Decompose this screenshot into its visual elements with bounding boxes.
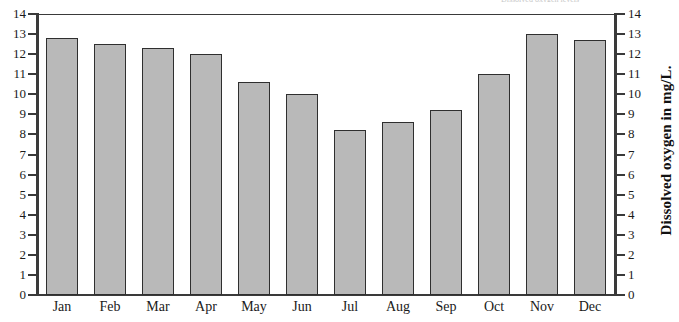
x-axis-label-may: May	[230, 299, 278, 315]
x-axis-label-jun: Jun	[278, 299, 326, 315]
y-axis-right-tick	[617, 93, 625, 95]
x-axis-label-oct: Oct	[470, 299, 518, 315]
y-axis-right-tick-label: 11	[628, 67, 642, 80]
y-axis-right-tick-label: 4	[628, 208, 642, 221]
x-axis-label-nov: Nov	[518, 299, 566, 315]
y-axis-right-tick	[617, 73, 625, 75]
y-axis-right-tick-label: 1	[628, 268, 642, 281]
x-axis-label-apr: Apr	[182, 299, 230, 315]
x-axis-label-jul: Jul	[326, 299, 374, 315]
bar-aug	[382, 122, 415, 295]
y-axis-left-tick-label: 6	[0, 168, 26, 181]
y-axis-right-tick	[617, 294, 625, 296]
y-axis-right-title: Dissolved oxygen in mg/L.	[655, 0, 677, 300]
y-axis-left-tick	[28, 274, 36, 276]
x-axis-label-mar: Mar	[134, 299, 182, 315]
y-axis-right-tick	[617, 53, 625, 55]
y-axis-left-tick-label: 4	[0, 208, 26, 221]
y-axis-left-tick-label: 12	[0, 47, 26, 60]
y-axis-left-tick-label: 13	[0, 27, 26, 40]
y-axis-right-tick-label: 3	[628, 228, 642, 241]
bar-jun	[286, 94, 319, 295]
y-axis-left-tick-label: 1	[0, 268, 26, 281]
x-axis-label-dec: Dec	[566, 299, 614, 315]
y-axis-left-tick-label: 9	[0, 107, 26, 120]
y-axis-right-tick	[617, 214, 625, 216]
y-axis-right-tick	[617, 274, 625, 276]
bar-jul	[334, 130, 367, 295]
bar-nov	[526, 34, 559, 295]
y-axis-left-tick-label: 8	[0, 127, 26, 140]
y-axis-left-tick	[28, 33, 36, 35]
y-axis-right-tick	[617, 13, 625, 15]
y-axis-right-tick	[617, 154, 625, 156]
bar-mar	[142, 48, 175, 295]
x-axis-label-jan: Jan	[38, 299, 86, 315]
x-axis-label-feb: Feb	[86, 299, 134, 315]
y-axis-right-tick-label: 10	[628, 87, 642, 100]
y-axis-left-tick-label: 2	[0, 248, 26, 261]
y-axis-right-tick	[617, 174, 625, 176]
y-axis-right-tick	[617, 234, 625, 236]
y-axis-right-title-text: Dissolved oxygen in mg/L.	[658, 65, 675, 235]
y-axis-left-tick-label: 0	[0, 288, 26, 301]
y-axis-left-tick-label: 11	[0, 67, 26, 80]
y-axis-left-tick	[28, 133, 36, 135]
y-axis-right-tick-label: 13	[628, 27, 642, 40]
y-axis-left-tick	[28, 73, 36, 75]
y-axis-right-tick	[617, 113, 625, 115]
y-axis-left-tick-label: 14	[0, 7, 26, 20]
x-axis-label-sep: Sep	[422, 299, 470, 315]
y-axis-left-tick-label: 7	[0, 148, 26, 161]
bar-sep	[430, 110, 463, 295]
y-axis-right-tick-label: 5	[628, 188, 642, 201]
x-axis-label-aug: Aug	[374, 299, 422, 315]
chart-figure: Dissolved oxygen levels 1413121110987654…	[0, 0, 679, 322]
bar-oct	[478, 74, 511, 295]
y-axis-left-tick	[28, 93, 36, 95]
y-axis-right-tick-label: 14	[628, 7, 642, 20]
y-axis-left-tick	[28, 53, 36, 55]
y-axis-right-tick-label: 2	[628, 248, 642, 261]
y-axis-left-tick	[28, 154, 36, 156]
y-axis-left-tick-label: 3	[0, 228, 26, 241]
y-axis-right-tick-label: 8	[628, 127, 642, 140]
y-axis-left-tick	[28, 13, 36, 15]
bar-may	[238, 82, 271, 295]
y-axis-left-tick	[28, 294, 36, 296]
y-axis-left-tick	[28, 214, 36, 216]
bar-feb	[94, 44, 127, 295]
y-axis-right-tick	[617, 133, 625, 135]
y-axis-right-tick	[617, 194, 625, 196]
y-axis-right-tick	[617, 254, 625, 256]
y-axis-right-tick-label: 12	[628, 47, 642, 60]
bar-dec	[574, 40, 607, 295]
chart-title: Dissolved oxygen levels	[430, 0, 650, 2]
y-axis-right-tick-label: 6	[628, 168, 642, 181]
y-axis-left-tick-label: 10	[0, 87, 26, 100]
y-axis-left-tick	[28, 174, 36, 176]
bar-jan	[46, 38, 79, 295]
y-axis-right-tick-label: 7	[628, 148, 642, 161]
y-axis-left-tick	[28, 254, 36, 256]
y-axis-right-tick-label: 0	[628, 288, 642, 301]
y-axis-right-tick	[617, 33, 625, 35]
y-axis-left-tick	[28, 113, 36, 115]
bar-apr	[190, 54, 223, 295]
y-axis-left-tick	[28, 194, 36, 196]
y-axis-left-spine	[36, 13, 39, 295]
y-axis-left-tick-label: 5	[0, 188, 26, 201]
y-axis-left-tick	[28, 234, 36, 236]
y-axis-right-tick-label: 9	[628, 107, 642, 120]
